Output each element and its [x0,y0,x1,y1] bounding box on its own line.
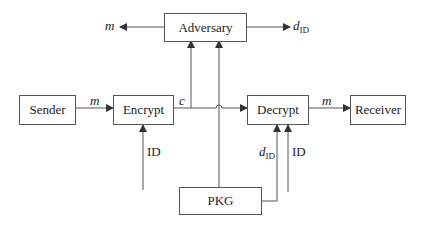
node-pkg-label: PKG [207,193,233,209]
node-receiver-label: Receiver [355,102,401,118]
label-adversary-did: dID [293,18,309,35]
label-encrypt-c: c [179,93,185,109]
node-receiver: Receiver [350,95,406,125]
node-adversary: Adversary [164,13,247,42]
label-adversary-m: m [105,18,114,34]
label-decrypt-receiver-m: m [322,93,331,109]
node-decrypt-label: Decrypt [257,102,299,118]
node-adversary-label: Adversary [178,20,232,36]
label-pkg-decrypt-did: dID [259,144,275,161]
node-encrypt: Encrypt [113,95,174,125]
node-decrypt: Decrypt [247,95,309,125]
node-sender: Sender [19,95,76,125]
label-adversary-did-sub: ID [300,25,310,35]
node-sender-label: Sender [29,102,65,118]
label-pkg-decrypt-did-sub: ID [266,151,276,161]
edge-pkg-decrypt [261,125,277,201]
node-pkg: PKG [179,187,262,215]
label-id-encrypt: ID [147,144,161,160]
label-id-decrypt: ID [292,144,306,160]
label-sender-encrypt-m: m [90,93,99,109]
node-encrypt-label: Encrypt [123,102,164,118]
